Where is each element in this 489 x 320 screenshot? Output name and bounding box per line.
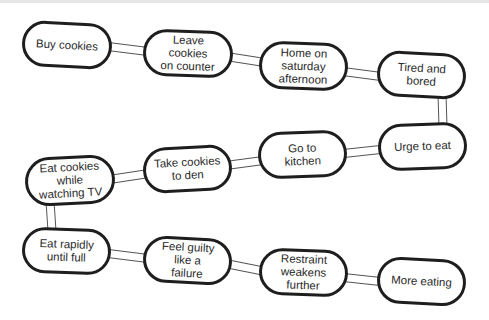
- chain-node-label: Eat cookies while watching TV: [37, 159, 102, 201]
- chain-node: Buy cookies: [21, 20, 113, 71]
- chain-node: Urge to eat: [377, 121, 468, 171]
- chain-node: Go to kitchen: [257, 129, 348, 179]
- chain-node-label: Buy cookies: [36, 37, 99, 53]
- chain-node: Eat rapidly until full: [21, 226, 112, 275]
- chain-node-label: Urge to eat: [394, 139, 451, 154]
- chain-node: Restraint weakens further: [258, 247, 349, 297]
- chain-node: Take cookies to den: [142, 144, 233, 195]
- chain-node: Leave cookies on counter: [142, 28, 234, 78]
- chain-node-label: Feel guilty like a failure: [160, 240, 214, 282]
- chain-node-label: Home on saturday afternoon: [279, 46, 329, 87]
- chain-node-label: Eat rapidly until full: [39, 237, 94, 265]
- chain-node: Eat cookies while watching TV: [24, 154, 116, 208]
- chain-node: Feel guilty like a failure: [142, 235, 233, 287]
- chain-node: Home on saturday afternoon: [258, 40, 349, 91]
- chain-node: More eating: [376, 256, 467, 308]
- chain-node-label: Go to kitchen: [284, 141, 321, 168]
- chain-node-label: Take cookies to den: [154, 154, 222, 183]
- chain-node-label: More eating: [391, 273, 452, 289]
- chain-node-label: Restraint weakens further: [280, 252, 327, 293]
- chain-node-label: Tired and bored: [397, 61, 446, 89]
- chain-node-label: Leave cookies on counter: [151, 33, 224, 74]
- chain-node: Tired and bored: [376, 50, 467, 101]
